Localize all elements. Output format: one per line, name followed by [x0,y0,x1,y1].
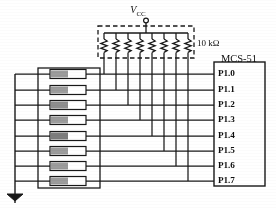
vcc-label: VCC [130,4,146,17]
pin-label-P1-2: P1.2 [218,99,235,109]
ground-symbol [7,190,23,203]
vcc-node-circle [144,18,149,23]
pin-label-P1-7: P1.7 [218,175,235,185]
switch-SW5[interactable] [50,147,86,156]
mcu-chip-label: MCS-51 [221,53,257,64]
switch-plunger-SW2 [51,102,68,109]
circuit-schematic-svg: VCC 10 kΩ [0,0,276,208]
switch-plunger-SW0 [51,71,68,78]
switch-SW0[interactable] [50,70,86,79]
switch-plunger-SW1 [51,87,68,94]
circuit-diagram: VCC 10 kΩ [0,0,276,208]
switch-plunger-SW5 [51,148,68,155]
pullup-resistor-group [101,33,191,58]
pin-label-P1-6: P1.6 [218,160,235,170]
switch-plunger-SW4 [51,133,68,140]
pin-label-P1-0: P1.0 [218,68,235,78]
switch-plunger-SW7 [51,178,68,185]
switch-SW6[interactable] [50,162,86,171]
resistor-R5 [161,33,167,58]
pin-label-P1-5: P1.5 [218,145,235,155]
pin-label-P1-3: P1.3 [218,114,235,124]
resistor-R3 [137,33,143,58]
resistor-R6 [173,33,179,58]
switch-SW2[interactable] [50,101,86,110]
switch-plunger-SW3 [51,117,68,124]
resistor-R2 [125,33,131,58]
switch-SW3[interactable] [50,116,86,125]
resistor-R7 [185,33,191,58]
resistor-value-label: 10 kΩ [197,38,220,48]
pin-signal-rows [15,74,214,181]
switch-SW4[interactable] [50,132,86,141]
ground-triangle [7,194,23,201]
switch-SW1[interactable] [50,86,86,95]
pin-label-P1-1: P1.1 [218,84,235,94]
switch-SW7[interactable] [50,177,86,186]
pin-label-P1-4: P1.4 [218,130,235,140]
switch-group [50,70,86,186]
resistor-R4 [149,33,155,58]
switch-plunger-SW6 [51,163,68,170]
resistor-R1 [113,33,119,58]
resistor-R0 [101,33,107,58]
